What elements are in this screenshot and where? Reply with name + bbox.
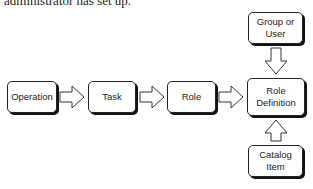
node-task: Task xyxy=(88,81,136,113)
node-catalog-item: Catalog Item xyxy=(248,145,303,177)
node-operation-label: Operation xyxy=(11,91,53,103)
node-task-label: Task xyxy=(102,91,122,103)
arrow-operation-task xyxy=(60,86,84,108)
node-group-or-user: Group or User xyxy=(248,12,303,44)
node-group-or-user-label: Group or User xyxy=(254,16,298,40)
arrow-group-roledef xyxy=(265,48,287,74)
arrow-task-role xyxy=(140,86,164,108)
node-role: Role xyxy=(167,81,216,113)
node-role-definition-label: Role Definition xyxy=(254,85,298,109)
node-role-definition: Role Definition xyxy=(247,78,305,116)
arrow-catalog-roledef xyxy=(265,120,287,141)
node-operation: Operation xyxy=(7,81,57,113)
arrow-role-roledef xyxy=(219,86,243,108)
node-role-label: Role xyxy=(182,91,202,103)
node-catalog-item-label: Catalog Item xyxy=(256,149,296,173)
